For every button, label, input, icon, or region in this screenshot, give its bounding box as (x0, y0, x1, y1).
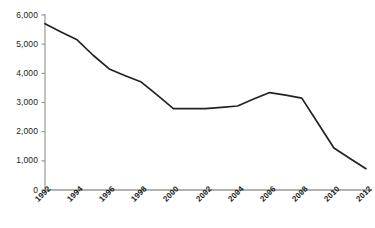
y-axis-tick-label: 5,000 (16, 40, 38, 49)
y-axis-tick-label: 2,000 (16, 127, 38, 136)
axes-group (42, 14, 373, 194)
y-axis-tick-label: 3,000 (16, 98, 38, 107)
y-axis-tick-label: 6,000 (16, 11, 38, 20)
line-chart: 6,0005,0004,0003,0002,0001,0000 19921994… (0, 0, 375, 228)
chart-plot-area (0, 0, 375, 228)
data-series-group (45, 24, 366, 169)
y-axis-tick-label: 1,000 (16, 156, 38, 165)
y-axis-tick-label: 4,000 (16, 69, 38, 78)
data-line-series-1 (45, 24, 366, 169)
